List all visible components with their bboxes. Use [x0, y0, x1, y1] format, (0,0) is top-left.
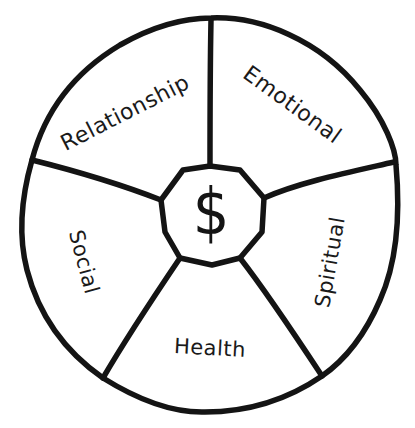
- spoke-left: [32, 160, 161, 200]
- dollar-sign-icon: $: [190, 180, 231, 244]
- spoke-right: [264, 162, 394, 198]
- spoke-top: [210, 20, 211, 166]
- spoke-bottom-left: [103, 258, 180, 378]
